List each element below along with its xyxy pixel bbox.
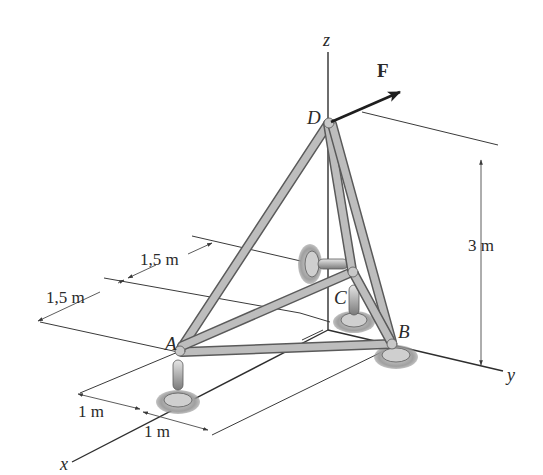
joint-b-label: B (398, 321, 410, 342)
space-truss-diagram: F z y x D A B C 3 m 1,5 m 1,5 m 1 m 1 m (0, 0, 543, 475)
dim-x-offset-1-label: 1 m (78, 402, 104, 421)
joint-d-label: D (306, 107, 321, 128)
member-ab (182, 344, 390, 352)
joint-d (324, 118, 334, 128)
force-arrow (331, 92, 400, 122)
joint-c (348, 267, 358, 277)
labels: z y x D A B C 3 m 1,5 m 1,5 m 1 m 1 m (46, 30, 515, 474)
joint-b (387, 339, 397, 349)
y-axis (328, 330, 503, 371)
axes (72, 52, 503, 462)
axis-z-label: z (322, 30, 330, 50)
dimensions (38, 160, 481, 430)
dim-y-offset-2-label: 1,5 m (46, 288, 85, 307)
dim-height-label: 3 m (468, 236, 494, 255)
force-label: F (377, 60, 389, 81)
construction-lines (40, 112, 498, 435)
joint-c-label: C (334, 287, 347, 308)
axis-x-label: x (59, 454, 68, 474)
support-a (156, 360, 200, 414)
joint-a-label: A (163, 333, 177, 354)
dim-x-offset-2-label: 1 m (144, 422, 170, 441)
axis-y-label: y (505, 365, 515, 385)
dim-y-offset-1-label: 1,5 m (140, 250, 179, 269)
